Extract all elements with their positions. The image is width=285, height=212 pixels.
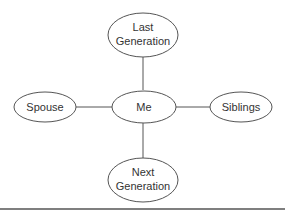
node-siblings: Siblings [210,92,272,122]
node-spouse-label: Spouse [26,101,63,113]
node-me-label: Me [136,101,151,113]
node-next-generation-line1: Next [132,166,155,178]
node-next-generation-line2: Generation [116,180,170,192]
node-siblings-label: Siblings [222,101,261,113]
node-spouse: Spouse [14,92,76,122]
node-last-generation: Last Generation [108,13,178,57]
node-last-generation-line2: Generation [116,35,170,47]
node-last-generation-line1: Last [133,21,154,33]
node-me: Me [112,91,176,123]
node-next-generation: Next Generation [108,158,178,202]
family-diagram: Last Generation Me Spouse Siblings Next … [0,0,285,212]
